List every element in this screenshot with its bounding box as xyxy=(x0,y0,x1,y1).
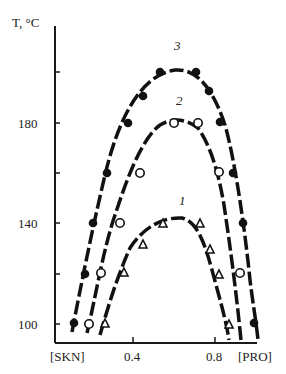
x-tick-label-0-4: 0.4 xyxy=(124,349,141,364)
curve-3 xyxy=(70,68,259,340)
curve-label-2: 2 xyxy=(176,93,183,108)
y-tick-label-140: 140 xyxy=(18,216,38,231)
curve-1 xyxy=(100,218,233,340)
x-tick-label-skn: [SKN] xyxy=(50,349,85,364)
y-axis-title: T, °C xyxy=(12,15,39,30)
curve-label-1: 1 xyxy=(179,193,186,208)
curve-label-3: 3 xyxy=(173,38,181,53)
y-tick-label-180: 180 xyxy=(18,116,38,131)
x-tick-label-0-8: 0.8 xyxy=(206,349,222,364)
x-tick-label-pro: [PRO] xyxy=(238,349,272,364)
y-tick-label-100: 100 xyxy=(18,317,38,332)
phase-diagram-chart: T, °C 180 140 100 [SKN] 0.4 0.8 [PRO] xyxy=(0,0,286,374)
